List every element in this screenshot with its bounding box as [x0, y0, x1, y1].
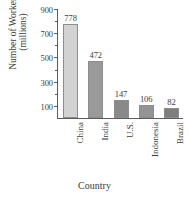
bar-slot: 778: [63, 9, 78, 118]
y-axis-tick-label: 700: [41, 29, 53, 39]
x-axis-category-label: China: [75, 122, 85, 144]
y-axis-title-line2: (millions): [18, 13, 28, 50]
bar-slot: 147: [114, 9, 129, 118]
bar[interactable]: [139, 105, 154, 118]
y-axis-title: Number of Workers (millions): [4, 0, 32, 84]
x-axis-category-label: India: [100, 122, 110, 141]
y-axis-tick-label: 900: [41, 5, 53, 15]
bar[interactable]: [114, 100, 129, 118]
bar-value-label: 778: [64, 13, 76, 23]
x-axis-line: [57, 118, 183, 119]
bar-slot: 82: [164, 9, 179, 118]
bar-series: 77847214710682: [58, 9, 183, 118]
x-axis-title: Country: [0, 180, 189, 191]
bar[interactable]: [63, 24, 78, 118]
y-axis-title-line1: Number of Workers: [8, 0, 18, 70]
y-axis-tick-label: 300: [41, 78, 53, 88]
bar[interactable]: [164, 108, 179, 118]
x-axis-category-label: Brazil: [175, 122, 185, 144]
bar-slot: 106: [139, 9, 154, 118]
x-axis-category-label: U.S.: [125, 122, 135, 138]
bar-value-label: 82: [167, 97, 175, 107]
y-axis-tick-label: 100: [41, 102, 53, 112]
bar-value-label: 106: [140, 94, 152, 104]
y-axis-tick-label: 500: [41, 53, 53, 63]
chart-figure: Number of Workers (millions) 90070050030…: [0, 0, 189, 200]
bar-value-label: 147: [115, 89, 127, 99]
bar-slot: 472: [88, 9, 103, 118]
x-axis-category-label: Indonesia: [150, 122, 160, 157]
bar-value-label: 472: [90, 50, 102, 60]
bar[interactable]: [88, 61, 103, 118]
plot-area: 900700500300100 77847214710682: [57, 9, 183, 119]
